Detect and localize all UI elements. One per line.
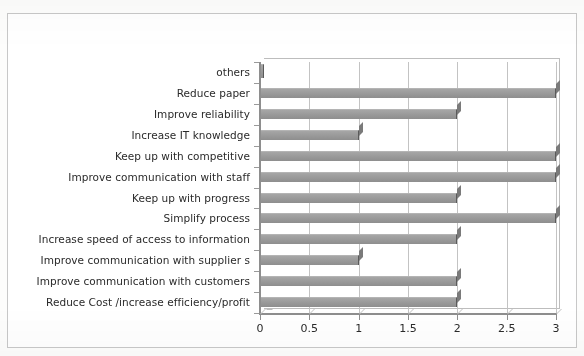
- category-axis-labels: othersReduce paperImprove reliabilityInc…: [0, 62, 250, 313]
- category-axis-tick-end: [254, 313, 259, 314]
- value-axis-label: 3: [536, 322, 576, 335]
- value-axis-label: 2.5: [487, 322, 527, 335]
- bar-depth-cap: [359, 122, 363, 136]
- bar-row[interactable]: [260, 271, 556, 292]
- category-axis-tick: [254, 271, 259, 272]
- value-axis-label: 0: [240, 322, 280, 335]
- value-axis-tick-2.5: [507, 315, 508, 320]
- bar[interactable]: [260, 109, 457, 119]
- bar[interactable]: [260, 234, 457, 244]
- value-axis-tick-1: [359, 315, 360, 320]
- bar-row[interactable]: [260, 208, 556, 229]
- bar[interactable]: [260, 255, 359, 265]
- value-axis-label: 0.5: [289, 322, 329, 335]
- category-axis-label: Reduce Cost /increase efficiency/profit: [0, 292, 250, 313]
- bars-layer: [260, 62, 556, 313]
- bar-depth-cap: [457, 226, 461, 240]
- bar[interactable]: [260, 193, 457, 203]
- category-axis-tick: [254, 104, 259, 105]
- category-axis-tick: [254, 146, 259, 147]
- value-axis-tick-2: [457, 315, 458, 320]
- category-axis-label: Keep up with progress: [0, 188, 250, 209]
- bar-row[interactable]: [260, 229, 556, 250]
- category-axis-tick: [254, 229, 259, 230]
- bar[interactable]: [260, 130, 359, 140]
- category-axis-label: Keep up with competitive: [0, 146, 250, 167]
- gridline-3: [556, 62, 557, 313]
- value-axis-tick-1.5: [408, 315, 409, 320]
- category-axis-tick: [254, 167, 259, 168]
- bar-row[interactable]: [260, 83, 556, 104]
- value-axis-label: 1.5: [388, 322, 428, 335]
- bar-row[interactable]: [260, 167, 556, 188]
- category-axis-label: Improve communication with supplier s: [0, 250, 250, 271]
- bar[interactable]: [260, 88, 556, 98]
- value-axis-tick-0.5: [309, 315, 310, 320]
- bar-depth-cap: [457, 289, 461, 303]
- value-axis-depth-tick-3: [556, 309, 567, 314]
- bar-depth-cap: [457, 268, 461, 282]
- category-axis-label: Improve reliability: [0, 104, 250, 125]
- bar-row[interactable]: [260, 62, 556, 83]
- bar[interactable]: [260, 297, 457, 307]
- bar-row[interactable]: [260, 188, 556, 209]
- bar-depth-cap: [457, 185, 461, 199]
- category-axis-label: Increase IT knowledge: [0, 125, 250, 146]
- value-axis-tick-0: [260, 315, 261, 320]
- category-axis-line: [259, 62, 261, 314]
- category-axis-tick: [254, 83, 259, 84]
- bar-row[interactable]: [260, 250, 556, 271]
- category-axis-tick: [254, 125, 259, 126]
- bar[interactable]: [260, 172, 556, 182]
- bar[interactable]: [260, 276, 457, 286]
- category-axis-tick: [254, 250, 259, 251]
- category-axis-label: Improve communication with staff: [0, 167, 250, 188]
- category-axis-tick: [254, 62, 259, 63]
- bar-row[interactable]: [260, 125, 556, 146]
- bar[interactable]: [260, 151, 556, 161]
- category-axis-tick: [254, 188, 259, 189]
- bar-depth-cap: [359, 247, 363, 261]
- value-axis-tick-3: [556, 315, 557, 320]
- category-axis-label: Increase speed of access to information: [0, 229, 250, 250]
- value-axis-label: 1: [339, 322, 379, 335]
- value-axis-label: 2: [437, 322, 477, 335]
- bar-depth-cap: [457, 101, 461, 115]
- category-axis-tick: [254, 292, 259, 293]
- category-axis-label: Reduce paper: [0, 83, 250, 104]
- bar-row[interactable]: [260, 146, 556, 167]
- category-axis-label: others: [0, 62, 250, 83]
- bar[interactable]: [260, 213, 556, 223]
- horizontal-bar-chart: othersReduce paperImprove reliabilityInc…: [0, 0, 584, 356]
- category-axis-label: Simplify process: [0, 208, 250, 229]
- category-axis-tick: [254, 208, 259, 209]
- category-axis-label: Improve communication with customers: [0, 271, 250, 292]
- bar-row[interactable]: [260, 104, 556, 125]
